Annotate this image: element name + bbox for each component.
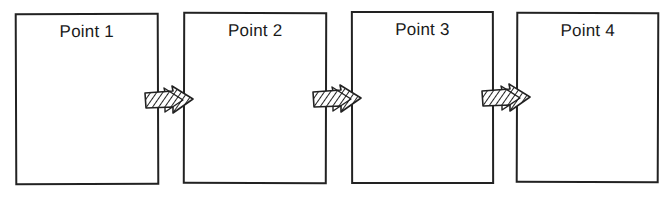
point-2-box: Point 2: [183, 12, 327, 184]
arrow-right-icon: [311, 84, 363, 114]
point-3-box: Point 3: [351, 11, 494, 184]
point-2-label: Point 2: [185, 21, 325, 41]
arrow-right-icon: [143, 85, 195, 115]
point-4-box: Point 4: [516, 12, 660, 183]
arrow-right-icon: [480, 83, 532, 113]
point-4-label: Point 4: [518, 21, 657, 41]
point-1-box: Point 1: [15, 13, 160, 186]
point-3-label: Point 3: [353, 20, 492, 40]
flow-diagram: Point 1 Point 2 Point 3 Point 4: [0, 0, 671, 197]
point-1-label: Point 1: [17, 22, 157, 42]
